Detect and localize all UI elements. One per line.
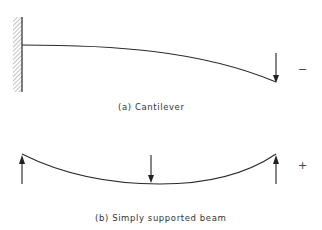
panel-a-cantilever bbox=[13, 17, 279, 92]
caption-a: (a) Cantilever bbox=[118, 102, 185, 112]
midspan-load-arrow-icon bbox=[148, 155, 154, 183]
point-load-arrow-icon bbox=[273, 53, 279, 83]
right-reaction-arrow-icon bbox=[273, 155, 279, 184]
left-reaction-arrow-icon bbox=[19, 155, 25, 184]
panel-b-simply-supported bbox=[19, 154, 279, 184]
beam-deflection-diagram bbox=[0, 0, 322, 230]
caption-b: (b) Simply supported beam bbox=[95, 213, 226, 223]
fixed-wall-hatch bbox=[13, 17, 22, 92]
sign-negative: − bbox=[298, 63, 307, 76]
sign-positive: + bbox=[298, 159, 307, 172]
cantilever-deflected-beam bbox=[22, 45, 276, 82]
simply-supported-deflected-beam bbox=[22, 154, 276, 184]
